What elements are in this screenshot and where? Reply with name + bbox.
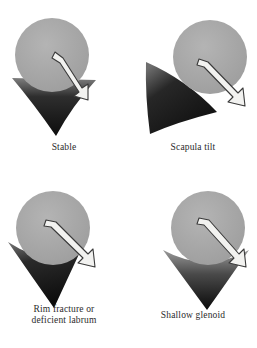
shoulder-stability-figure: Stable Scapula tilt bbox=[0, 0, 257, 348]
diagram-rim-fracture bbox=[0, 174, 128, 324]
caption-line: Stable bbox=[0, 142, 128, 153]
diagram-shallow-glenoid bbox=[129, 174, 257, 324]
caption-line: Rim fracture or bbox=[0, 304, 128, 315]
caption-rim-fracture: Rim fracture or deficient labrum bbox=[0, 304, 128, 326]
humeral-head bbox=[173, 20, 247, 94]
caption-shallow-glenoid: Shallow glenoid bbox=[129, 310, 257, 321]
panel-stable: Stable bbox=[0, 0, 128, 174]
diagram-scapula-tilt bbox=[129, 0, 257, 150]
caption-line: Shallow glenoid bbox=[129, 310, 257, 321]
caption-line: deficient labrum bbox=[0, 315, 128, 326]
caption-line: Scapula tilt bbox=[129, 142, 257, 153]
panel-scapula-tilt: Scapula tilt bbox=[129, 0, 257, 174]
caption-stable: Stable bbox=[0, 142, 128, 153]
diagram-stable bbox=[0, 0, 128, 150]
caption-scapula-tilt: Scapula tilt bbox=[129, 142, 257, 153]
panel-shallow-glenoid: Shallow glenoid bbox=[129, 174, 257, 348]
panel-rim-fracture: Rim fracture or deficient labrum bbox=[0, 174, 128, 348]
